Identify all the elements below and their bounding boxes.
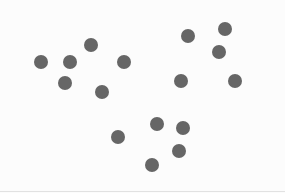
series-cluster-2 <box>174 22 242 88</box>
data-point <box>176 121 190 135</box>
data-point <box>111 130 125 144</box>
points-layer <box>34 22 242 172</box>
data-point <box>218 22 232 36</box>
data-point <box>58 76 72 90</box>
data-point <box>172 144 186 158</box>
data-point <box>117 55 131 69</box>
series-cluster-1 <box>34 38 131 99</box>
data-point <box>174 74 188 88</box>
data-point <box>212 45 226 59</box>
data-point <box>150 117 164 131</box>
data-point <box>228 74 242 88</box>
data-point <box>84 38 98 52</box>
data-point <box>34 55 48 69</box>
series-cluster-3 <box>111 117 190 172</box>
scatter-plot <box>0 0 285 193</box>
scatter-plot-canvas <box>0 0 285 193</box>
data-point <box>63 55 77 69</box>
data-point <box>145 158 159 172</box>
data-point <box>95 85 109 99</box>
data-point <box>181 29 195 43</box>
